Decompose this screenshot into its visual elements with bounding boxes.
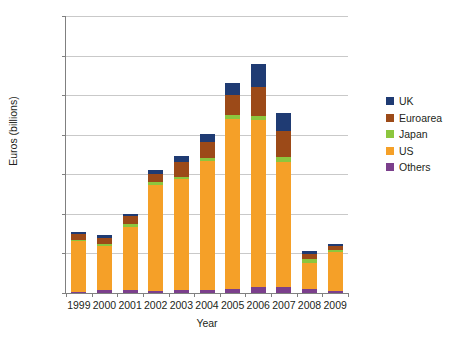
bar-2008[interactable] — [302, 16, 317, 293]
x-axis-line — [65, 293, 349, 294]
bar-segment-euroarea[interactable] — [148, 174, 163, 182]
bar-2005[interactable] — [225, 16, 240, 293]
plot-area — [66, 16, 348, 293]
y-axis-line — [65, 16, 66, 294]
bar-segment-us[interactable] — [123, 227, 138, 291]
x-axis-tick-label: 2004 — [194, 299, 220, 311]
bar-segment-japan[interactable] — [123, 224, 138, 227]
bar-segment-uk[interactable] — [302, 251, 317, 254]
bar-segment-japan[interactable] — [71, 240, 86, 241]
x-axis-tick-mark — [348, 293, 349, 297]
bar-segment-uk[interactable] — [225, 83, 240, 94]
bar-segment-uk[interactable] — [123, 214, 138, 216]
legend-item-euroarea[interactable]: Euroarea — [386, 110, 442, 127]
bar-segment-japan[interactable] — [97, 244, 112, 246]
bar-segment-japan[interactable] — [148, 182, 163, 186]
bar-segment-euroarea[interactable] — [302, 254, 317, 259]
bar-segment-japan[interactable] — [328, 250, 343, 252]
bar-segment-uk[interactable] — [251, 64, 266, 87]
bar-segment-japan[interactable] — [251, 116, 266, 121]
x-axis-tick-label: 2003 — [169, 299, 195, 311]
bar-2003[interactable] — [174, 16, 189, 293]
bar-segment-us[interactable] — [200, 161, 215, 290]
x-axis-tick-mark — [322, 293, 323, 297]
x-axis-tick-label: 2008 — [297, 299, 323, 311]
x-axis-tick-label: 1999 — [66, 299, 92, 311]
bar-1999[interactable] — [71, 16, 86, 293]
bar-segment-euroarea[interactable] — [276, 131, 291, 157]
bar-segment-euroarea[interactable] — [200, 142, 215, 158]
legend-item-others[interactable]: Others — [386, 159, 442, 176]
bar-segment-us[interactable] — [225, 119, 240, 288]
bar-segment-euroarea[interactable] — [97, 238, 112, 244]
bar-segment-us[interactable] — [71, 241, 86, 292]
bar-segment-euroarea[interactable] — [71, 234, 86, 240]
bar-segment-euroarea[interactable] — [225, 95, 240, 115]
y-axis-title: Euros (billions) — [7, 76, 19, 186]
legend-label: Japan — [399, 129, 428, 139]
legend-item-us[interactable]: US — [386, 143, 442, 160]
bar-segment-uk[interactable] — [97, 235, 112, 238]
bar-2001[interactable] — [123, 16, 138, 293]
bar-segment-uk[interactable] — [328, 244, 343, 246]
x-axis-tick-label: 2000 — [92, 299, 118, 311]
bar-segment-uk[interactable] — [200, 134, 215, 142]
x-axis-tick-mark — [92, 293, 93, 297]
bar-segment-us[interactable] — [276, 162, 291, 287]
bar-segment-euroarea[interactable] — [123, 216, 138, 224]
bar-segment-japan[interactable] — [200, 158, 215, 162]
bar-segment-euroarea[interactable] — [174, 162, 189, 176]
bar-segment-us[interactable] — [148, 185, 163, 291]
bar-2009[interactable] — [328, 16, 343, 293]
bar-2006[interactable] — [251, 16, 266, 293]
chart-legend: UKEuroareaJapanUSOthers — [386, 93, 442, 176]
x-axis-tick-label: 2002 — [143, 299, 169, 311]
bar-segment-us[interactable] — [328, 252, 343, 290]
bar-2002[interactable] — [148, 16, 163, 293]
bar-segment-japan[interactable] — [302, 259, 317, 263]
chart-container: 0500100015002000250030003500 19992000200… — [0, 0, 449, 338]
bar-segment-uk[interactable] — [276, 113, 291, 131]
x-axis-tick-label: 2005 — [220, 299, 246, 311]
x-axis-tick-label: 2009 — [322, 299, 348, 311]
x-axis-tick-mark — [271, 293, 272, 297]
bar-segment-us[interactable] — [174, 179, 189, 291]
x-axis-tick-mark — [66, 293, 67, 297]
legend-swatch-icon — [386, 97, 394, 105]
bar-segment-japan[interactable] — [174, 177, 189, 179]
x-axis-tick-label: 2007 — [271, 299, 297, 311]
legend-item-uk[interactable]: UK — [386, 93, 442, 110]
x-axis-title: Year — [65, 317, 349, 329]
x-axis-tick-mark — [297, 293, 298, 297]
x-axis-tick-mark — [194, 293, 195, 297]
bar-segment-uk[interactable] — [174, 156, 189, 162]
x-axis-tick-mark — [245, 293, 246, 297]
legend-swatch-icon — [386, 114, 394, 122]
bar-segment-japan[interactable] — [225, 115, 240, 120]
legend-swatch-icon — [386, 163, 394, 171]
legend-label: UK — [399, 96, 414, 106]
bar-segment-uk[interactable] — [71, 232, 86, 234]
bar-segment-euroarea[interactable] — [328, 246, 343, 250]
bar-segment-uk[interactable] — [148, 170, 163, 174]
legend-swatch-icon — [386, 147, 394, 155]
x-axis-tick-label: 2001 — [117, 299, 143, 311]
x-axis-tick-mark — [169, 293, 170, 297]
bar-segment-us[interactable] — [302, 263, 317, 289]
x-axis-tick-mark — [220, 293, 221, 297]
bar-segment-euroarea[interactable] — [251, 87, 266, 115]
bar-2004[interactable] — [200, 16, 215, 293]
bar-segment-us[interactable] — [97, 246, 112, 290]
legend-item-japan[interactable]: Japan — [386, 126, 442, 143]
bar-2000[interactable] — [97, 16, 112, 293]
legend-label: Euroarea — [399, 113, 442, 123]
legend-label: Others — [399, 162, 431, 172]
bar-segment-japan[interactable] — [276, 157, 291, 161]
bar-segment-us[interactable] — [251, 120, 266, 287]
bar-2007[interactable] — [276, 16, 291, 293]
x-axis-tick-mark — [143, 293, 144, 297]
x-axis-tick-mark — [117, 293, 118, 297]
x-axis-tick-label: 2006 — [245, 299, 271, 311]
legend-label: US — [399, 146, 414, 156]
legend-swatch-icon — [386, 130, 394, 138]
